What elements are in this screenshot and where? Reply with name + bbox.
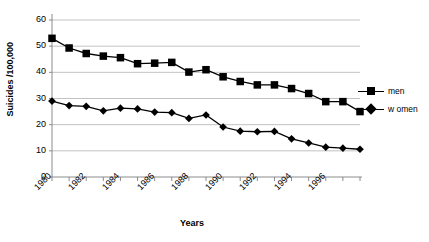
data-point-marker [185, 115, 193, 123]
data-point-marker [65, 102, 73, 110]
data-point-marker [185, 68, 193, 76]
data-point-marker [271, 128, 279, 136]
data-point-marker [168, 59, 176, 67]
data-point-marker [322, 143, 330, 151]
data-point-marker [202, 111, 210, 119]
legend-label-men: men [388, 86, 405, 96]
y-tick-label: 50 [24, 40, 46, 50]
data-point-marker [356, 145, 364, 153]
data-point-marker [288, 85, 296, 93]
data-point-marker [82, 103, 90, 111]
data-point-marker [271, 81, 279, 89]
axis-lines [49, 14, 362, 177]
data-point-marker [236, 127, 244, 135]
y-tick-label: 60 [24, 14, 46, 24]
y-tick-label: 10 [24, 145, 46, 155]
data-point-marker [236, 78, 244, 86]
data-point-marker [117, 54, 125, 62]
data-point-marker [48, 35, 56, 43]
y-tick-label: 20 [24, 119, 46, 129]
y-tick-label: 30 [24, 93, 46, 103]
legend-item-women: w omen [358, 100, 428, 118]
legend-marker-square-icon [358, 85, 384, 97]
data-point-marker [305, 139, 313, 147]
legend-label-women: w omen [388, 104, 418, 114]
data-point-marker [168, 109, 176, 117]
y-tick-label: 40 [24, 66, 46, 76]
data-point-marker [99, 107, 107, 115]
chart-legend: men w omen [358, 82, 428, 118]
data-point-marker [305, 90, 313, 98]
data-point-marker [134, 105, 142, 113]
plot-area [0, 0, 429, 242]
data-point-marker [134, 60, 142, 68]
data-point-marker [82, 50, 90, 58]
gridlines [52, 20, 360, 151]
data-point-marker [117, 104, 125, 112]
data-point-marker [65, 44, 73, 52]
data-point-marker [339, 98, 347, 106]
data-point-marker [219, 73, 227, 81]
data-point-marker [151, 59, 159, 67]
series-men [48, 35, 364, 116]
data-point-marker [322, 98, 330, 106]
data-point-marker [288, 135, 296, 143]
data-point-marker [151, 108, 159, 116]
legend-item-men: men [358, 82, 428, 100]
suicide-rate-line-chart: Suicides /100,000 Years 0102030405060 19… [0, 0, 429, 242]
data-point-marker [202, 66, 210, 74]
series-women [48, 97, 364, 153]
data-point-marker [253, 128, 261, 136]
data-point-marker [100, 52, 108, 60]
data-point-marker [254, 81, 261, 89]
legend-marker-diamond-icon [358, 103, 384, 115]
